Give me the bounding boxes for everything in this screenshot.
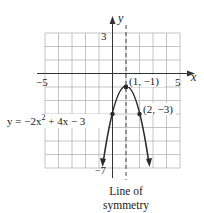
parabola-graph: y x 3 −5 5 −7 (1, −1) (2, −3) y = −2x2 +… <box>0 0 204 213</box>
tick-x-max: 5 <box>175 76 181 88</box>
vertex-point <box>124 85 129 90</box>
equation-label: y = −2x2 + 4x − 3 <box>7 113 86 127</box>
tick-x-min: −5 <box>36 76 48 88</box>
symmetry-caption-line1: Line of <box>109 185 143 197</box>
point-2-neg3-label: (2, −3) <box>143 103 173 116</box>
y-axis-label: y <box>117 11 124 25</box>
symmetry-caption-line2: symmetry <box>103 199 149 212</box>
point-0-neg3 <box>110 112 114 116</box>
x-axis-label: x <box>190 70 197 84</box>
tick-y-max: 3 <box>101 30 107 42</box>
curve-right-arrow-icon <box>146 158 152 167</box>
point-2-neg3 <box>137 112 141 116</box>
vertex-label: (1, −1) <box>129 75 159 88</box>
y-axis-arrow-icon <box>110 16 116 24</box>
tick-y-min: −7 <box>95 165 106 176</box>
